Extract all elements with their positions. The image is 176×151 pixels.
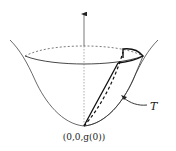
- apex-label: (0,0,g(0)): [63, 132, 106, 142]
- region-pointer-arrow: [124, 98, 147, 105]
- paraboloid-diagram: T (0,0,g(0)): [0, 0, 176, 151]
- rim-front: [25, 56, 143, 64]
- wedge-front-edge: [84, 63, 118, 126]
- wedge-top-arc: [118, 49, 143, 63]
- region-label-t: T: [150, 100, 159, 113]
